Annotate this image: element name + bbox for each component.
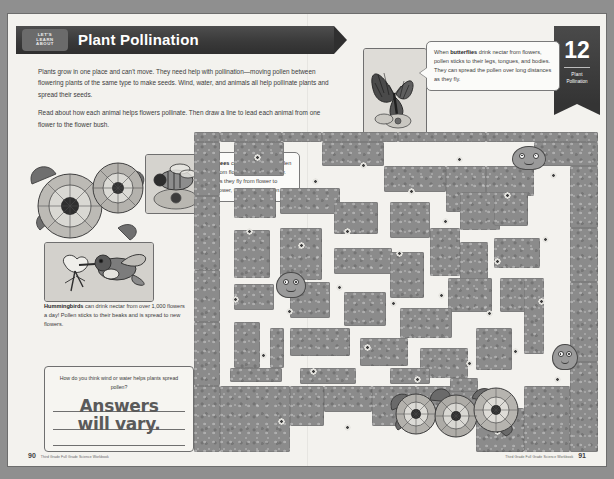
maze-bloom-icon (554, 376, 561, 383)
maze-hedge-block (486, 132, 598, 142)
page-title: Plant Pollination (78, 31, 199, 48)
butterfly-photo (363, 48, 427, 136)
callout-butterfly: When butterflies drink nectar from flowe… (426, 41, 560, 91)
pollination-maze[interactable] (194, 132, 598, 452)
critter-eye-right (533, 153, 539, 159)
maze-hedge-block (344, 292, 386, 326)
maze-bloom-icon (260, 352, 267, 359)
maze-hedge-block (384, 166, 446, 192)
intro-copy: Plants grow in one place and can't move.… (38, 66, 330, 137)
callout-hummingbird-lead: Hummingbirds (44, 303, 83, 309)
maze-hedge-block (220, 132, 282, 142)
callout-hummingbird: Hummingbirds can drink nectar from over … (44, 302, 186, 329)
footer-right: 91 Third Grade Full Grade Science Workbo… (505, 452, 586, 459)
maze-hedge-block (448, 278, 492, 312)
maze-hedge-block (270, 328, 284, 368)
maze-bloom-icon (504, 192, 511, 199)
flower-bush-illustration (390, 364, 522, 438)
maze-bloom-icon (494, 258, 501, 265)
maze-bloom-icon (286, 308, 293, 315)
maze-bloom-icon (542, 236, 549, 243)
maze-hedge-block (282, 132, 322, 142)
maze-critter-butterfly-start[interactable] (512, 146, 546, 170)
maze-hedge-block (390, 202, 430, 238)
callout-butterfly-lead: butterflies (450, 49, 477, 55)
critter-body (512, 146, 546, 170)
maze-hedge-block (390, 252, 424, 298)
maze-hedge-block (570, 228, 598, 282)
maze-hedge-block (430, 228, 460, 276)
maze-bloom-icon (396, 250, 403, 257)
page-source-left: Third Grade Full Grade Science Workbook (41, 455, 109, 459)
maze-bloom-icon (336, 284, 343, 291)
maze-hedge-block (334, 248, 392, 274)
page-number-left: 90 (28, 452, 36, 459)
critter-body (276, 272, 306, 298)
maze-hedge-block (524, 278, 544, 354)
answer-question: How do you think wind or water helps pla… (54, 374, 184, 391)
maze-bloom-icon (486, 310, 493, 317)
answer-text-line-1: Answers (45, 396, 193, 416)
maze-bloom-icon (364, 344, 371, 351)
lets-learn-about-tab: LET'S LEARN ABOUT (22, 29, 68, 51)
critter-body (552, 344, 578, 370)
answer-box[interactable]: How do you think wind or water helps pla… (44, 366, 194, 452)
maze-bloom-icon (442, 218, 449, 225)
maze-hedge-block (234, 188, 276, 218)
maze-bloom-icon (344, 424, 351, 431)
maze-hedge-block (398, 132, 486, 142)
maze-bloom-icon (312, 178, 319, 185)
maze-hedge-block (570, 362, 598, 452)
maze-hedge-block (322, 142, 384, 166)
chapter-tab: 12 Plant Pollination (554, 26, 600, 104)
maze-bloom-icon (512, 348, 519, 355)
maze-hedge-block (322, 132, 398, 142)
intro-paragraph-2: Read about how each animal helps flowers… (38, 107, 330, 130)
maze-bloom-icon (254, 154, 261, 161)
maze-bloom-icon (360, 162, 367, 169)
chapter-divider (564, 67, 590, 68)
maze-hedge-block (234, 322, 260, 368)
left-flower-decoration (26, 154, 162, 258)
maze-hedge-block (494, 238, 540, 268)
zinnia-cluster-illustration (26, 154, 162, 258)
maze-hedge-block (360, 338, 408, 366)
critter-eye-left (283, 279, 289, 285)
workbook-page-spread: LET'S LEARN ABOUT Plant Pollination 12 P… (8, 14, 606, 466)
maze-hedge-block (194, 386, 220, 452)
footer-left: 90 Third Grade Full Grade Science Workbo… (28, 452, 109, 459)
maze-hedge-block (230, 368, 282, 382)
maze-bloom-icon (232, 296, 239, 303)
maze-goal-flower-bush (390, 364, 522, 438)
maze-hedge-block (194, 142, 220, 196)
maze-hedge-block (194, 270, 220, 322)
maze-hedge-block (334, 202, 378, 234)
maze-hedge-block (290, 386, 324, 426)
chapter-label-line-1: Plant (554, 72, 600, 79)
page-source-right: Third Grade Full Grade Science Workbook (505, 455, 573, 459)
maze-bloom-icon (344, 228, 351, 235)
maze-critter-hummingbird-start[interactable] (552, 344, 578, 370)
intro-paragraph-1: Plants grow in one place and can't move.… (38, 66, 330, 100)
maze-hedge-block (290, 328, 350, 356)
maze-bloom-icon (310, 368, 317, 375)
maze-bloom-icon (456, 156, 463, 163)
maze-hedge-block (400, 308, 452, 338)
answer-rule-3 (53, 445, 185, 446)
maze-hedge-block (300, 368, 356, 384)
page-header-banner: LET'S LEARN ABOUT Plant Pollination (16, 26, 334, 54)
maze-hedge-block (524, 386, 570, 452)
maze-hedge-block (494, 192, 528, 226)
maze-hedge-block (194, 322, 220, 386)
maze-hedge-block (194, 196, 220, 270)
maze-critter-bee-start[interactable] (276, 272, 306, 298)
maze-bloom-icon (538, 298, 545, 305)
eyebrow-line-3: ABOUT (36, 42, 54, 47)
maze-bloom-icon (408, 188, 415, 195)
maze-bloom-icon (298, 242, 305, 249)
answer-text-line-2: will vary. (45, 414, 193, 434)
maze-bloom-icon (278, 418, 285, 425)
maze-hedge-block (280, 188, 340, 214)
maze-bloom-icon (438, 292, 445, 299)
maze-hedge-block (194, 132, 220, 142)
